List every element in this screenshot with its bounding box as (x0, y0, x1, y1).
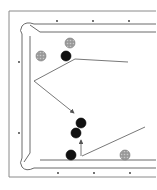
rail-outer (21, 23, 157, 170)
diamond-marker (56, 20, 58, 22)
diamond-marker (18, 61, 20, 63)
path-bottom (82, 127, 145, 156)
table-frame (9, 11, 156, 177)
gray-ball-2 (65, 38, 75, 48)
diamond-marker (128, 20, 130, 22)
diamond-marker (129, 172, 131, 174)
path-top (34, 59, 128, 81)
gray-ball-3 (120, 150, 130, 160)
balls (36, 38, 130, 160)
shot-paths (34, 59, 145, 156)
path-arrow-down (34, 81, 74, 113)
black-ball-4 (66, 150, 76, 160)
black-ball-2 (76, 118, 86, 128)
cushion-inner (24, 25, 156, 162)
diamond-marker (92, 20, 94, 22)
gray-ball-1 (36, 51, 46, 61)
diamond-marker (18, 132, 20, 134)
diamond-marker (93, 172, 95, 174)
billiards-diagram (0, 0, 156, 190)
black-ball-3 (71, 128, 81, 138)
black-ball-1 (61, 51, 71, 61)
diamond-marker (57, 172, 59, 174)
